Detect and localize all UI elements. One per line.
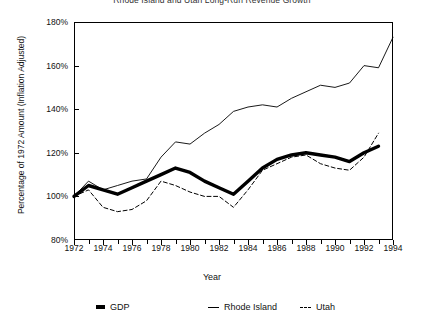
y-tick-label: 120% xyxy=(28,148,68,158)
legend-label: Utah xyxy=(316,302,335,312)
chart-title: Rhode Island and Utah Long-Run Revenue G… xyxy=(0,0,424,5)
legend-item-rhode-island[interactable]: Rhode Island xyxy=(208,300,277,314)
y-axis-title: Percentage of 1972 Amount (Inflation Adj… xyxy=(16,20,26,230)
x-tick-mark xyxy=(306,240,307,245)
x-tick-mark xyxy=(103,240,104,245)
legend-item-utah[interactable]: Utah xyxy=(300,300,335,314)
x-tick-mark xyxy=(335,240,336,245)
dashed-icon xyxy=(300,307,311,308)
x-tick-mark xyxy=(161,240,162,245)
legend-label: GDP xyxy=(110,302,130,312)
chart-legend: GDPRhode IslandUtah xyxy=(74,300,393,316)
thick-solid-icon xyxy=(96,305,105,309)
y-tick-label: 160% xyxy=(28,61,68,71)
y-tick-label: 140% xyxy=(28,104,68,114)
x-tick-mark xyxy=(393,240,394,245)
legend-label: Rhode Island xyxy=(224,302,277,312)
x-tick-mark xyxy=(74,240,75,245)
legend-item-gdp[interactable]: GDP xyxy=(96,300,130,314)
thin-solid-icon xyxy=(208,307,219,308)
x-tick-mark xyxy=(248,240,249,245)
x-tick-mark xyxy=(132,240,133,245)
plot-area xyxy=(74,22,393,240)
chart-container: Rhode Island and Utah Long-Run Revenue G… xyxy=(0,0,424,326)
y-tick-mark xyxy=(74,196,79,197)
x-tick-mark xyxy=(190,240,191,245)
y-tick-label: 180% xyxy=(28,17,68,27)
x-tick-mark xyxy=(219,240,220,245)
x-tick-mark xyxy=(364,240,365,245)
y-tick-label: 100% xyxy=(28,191,68,201)
x-axis-title: Year xyxy=(0,272,424,282)
y-tick-mark xyxy=(74,66,79,67)
x-tick-mark xyxy=(277,240,278,245)
y-tick-mark xyxy=(74,153,79,154)
y-tick-mark xyxy=(74,109,79,110)
